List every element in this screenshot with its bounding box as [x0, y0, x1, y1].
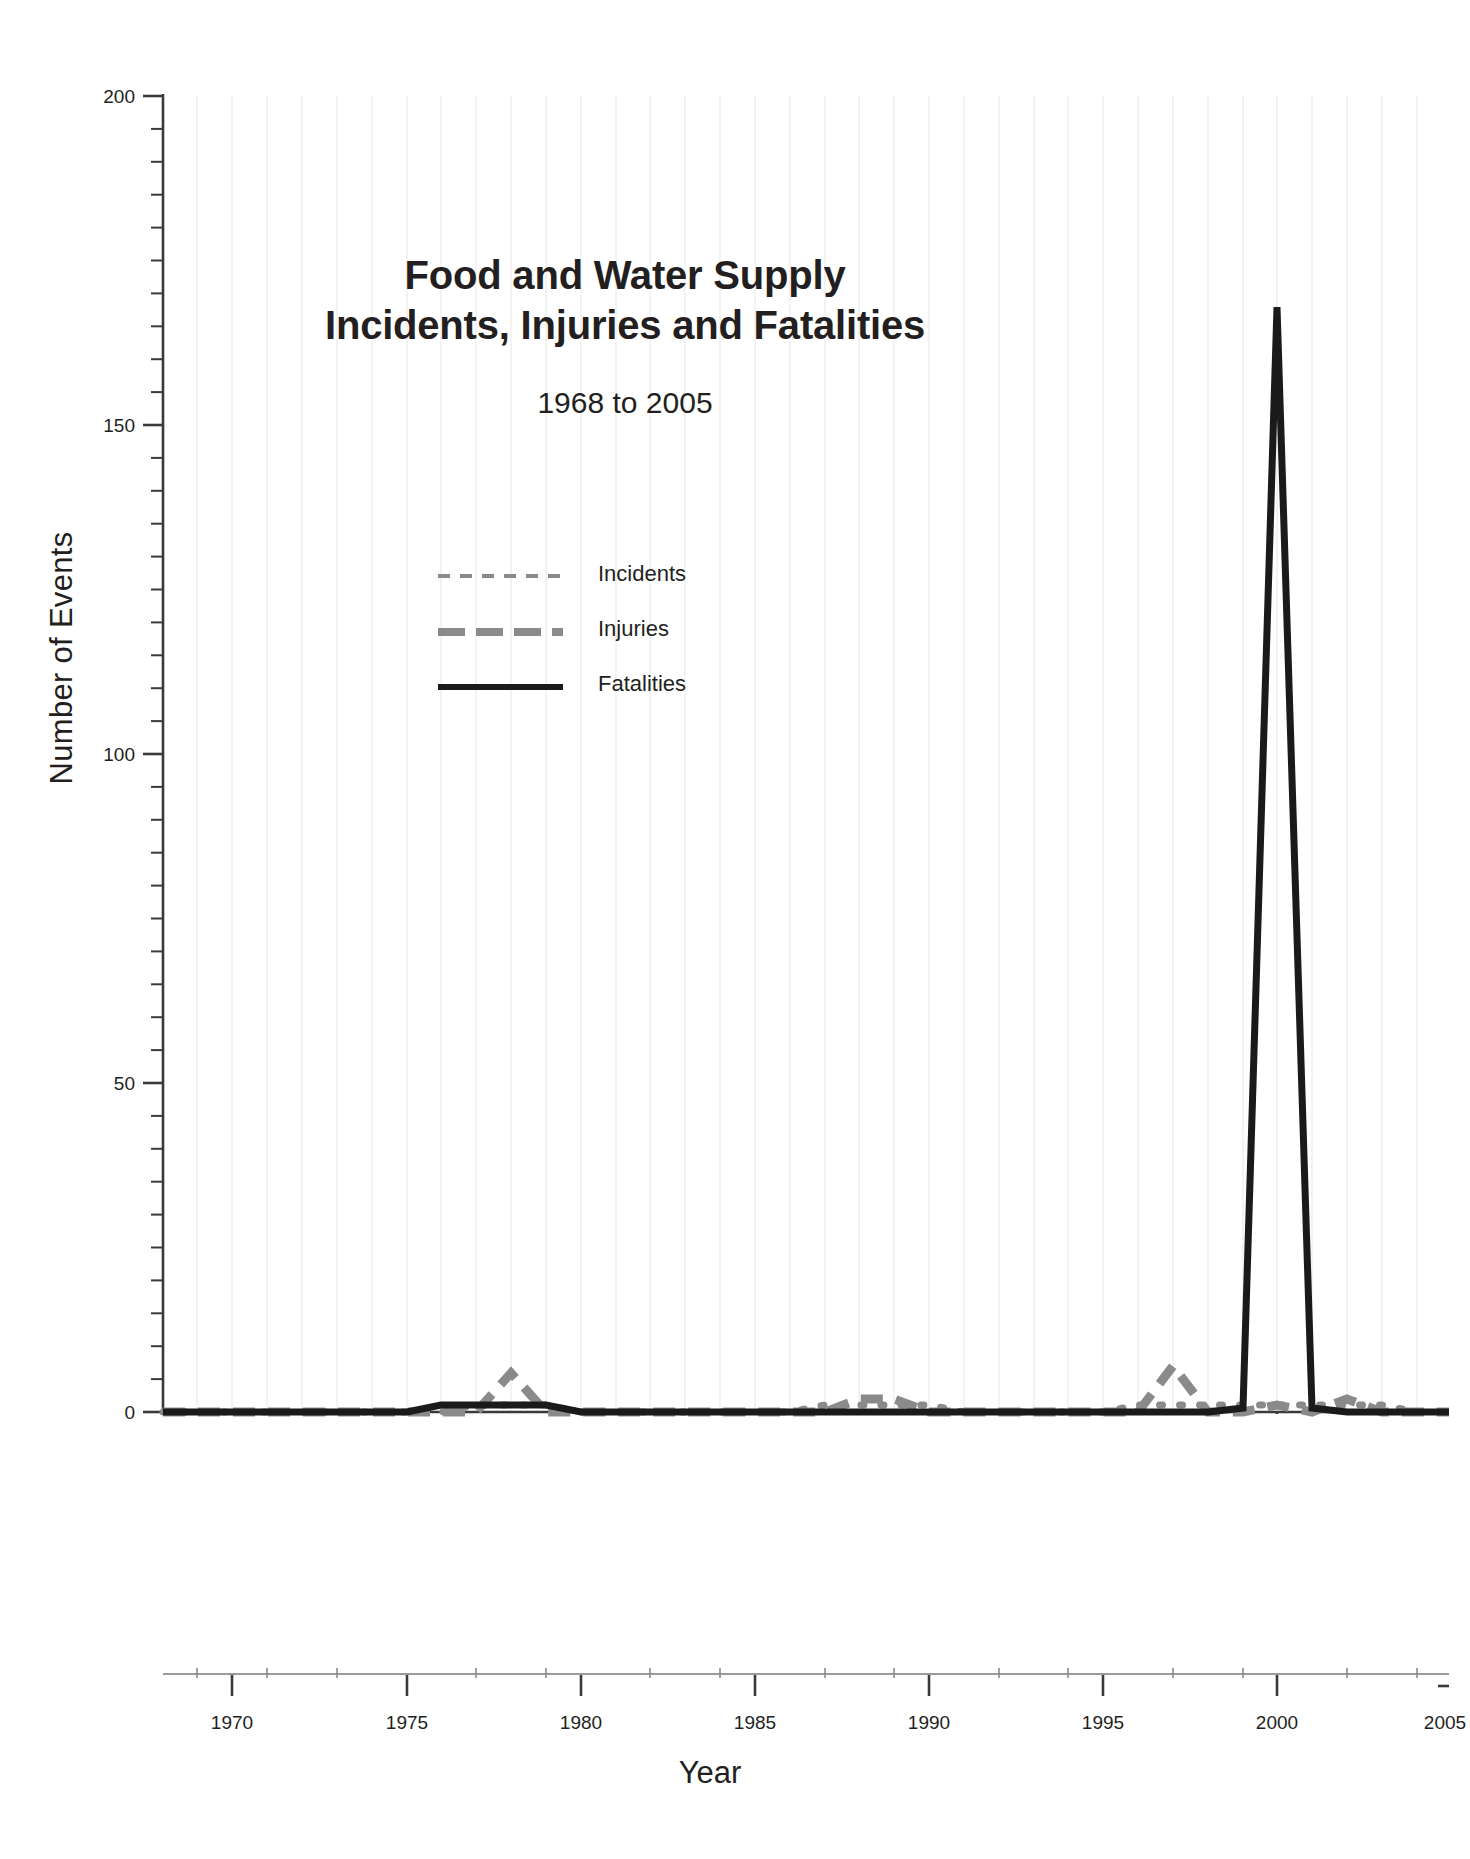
x-tick-label-2005: 2005 [1400, 1712, 1470, 1734]
x-axis-title: Year [560, 1755, 860, 1791]
legend-label-fatalities: Fatalities [598, 671, 686, 697]
legend-label-injuries: Injuries [598, 616, 669, 642]
x-tick-label-1985: 1985 [710, 1712, 800, 1734]
legend-label-incidents: Incidents [598, 561, 686, 587]
y-axis-title: Number of Events [44, 498, 80, 818]
chart-title-line-2: Incidents, Injuries and Fatalities [160, 300, 1090, 350]
legend-swatch-dashed-line-icon [438, 628, 563, 636]
x-tick-label-2000: 2000 [1232, 1712, 1322, 1734]
x-tick-label-1990: 1990 [884, 1712, 974, 1734]
y-tick-label-0: 0 [65, 1402, 135, 1424]
x-tick-label-1995: 1995 [1058, 1712, 1148, 1734]
chart-subtitle: 1968 to 2005 [160, 386, 1090, 420]
chart-title-line-1: Food and Water Supply [160, 250, 1090, 300]
series-fatalities [163, 307, 1449, 1412]
chart-title: Food and Water Supply Incidents, Injurie… [160, 250, 1090, 350]
legend-swatch-dotted-line-icon [438, 573, 563, 578]
x-tick-label-1975: 1975 [362, 1712, 452, 1734]
y-tick-label-150: 150 [65, 415, 135, 437]
y-tick-label-50: 50 [65, 1073, 135, 1095]
legend-swatch-solid-line-icon [438, 684, 563, 690]
y-tick-label-200: 200 [65, 86, 135, 108]
x-tick-label-1980: 1980 [536, 1712, 626, 1734]
x-tick-label-1970: 1970 [187, 1712, 277, 1734]
